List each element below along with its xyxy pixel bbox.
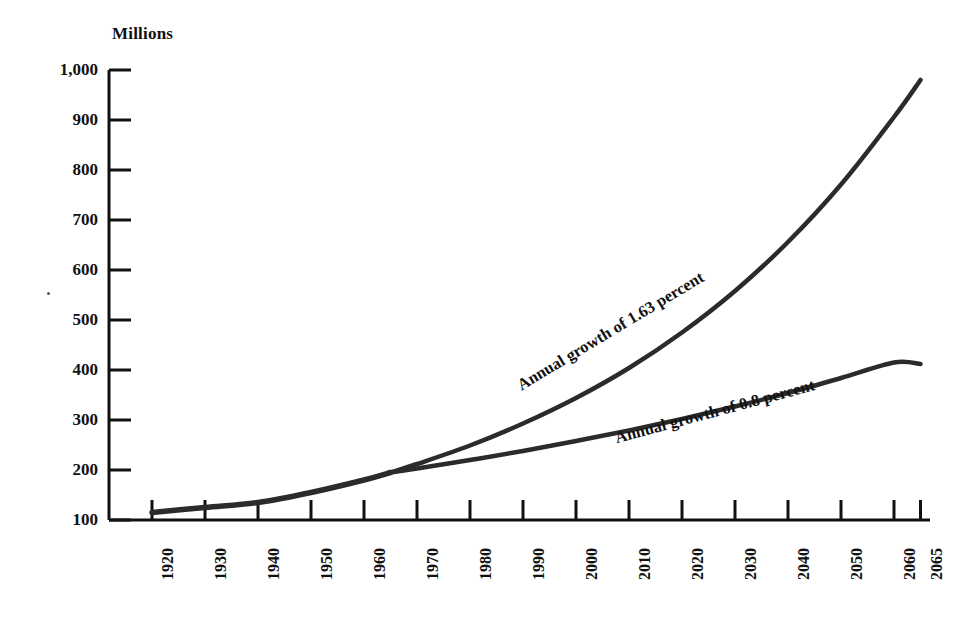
y-axis-tick-label: 400 bbox=[0, 360, 98, 380]
x-axis-tick-label: 1970 bbox=[424, 548, 442, 580]
y-axis-tick-label: 300 bbox=[0, 410, 98, 430]
x-axis-tick-label: 2065 bbox=[928, 548, 946, 580]
y-axis-unit-title: Millions bbox=[112, 24, 173, 44]
x-axis-tick-label: 1990 bbox=[530, 548, 548, 580]
x-axis-tick-label: 1940 bbox=[265, 548, 283, 580]
curve-historical bbox=[152, 473, 391, 513]
x-axis-tick-label: 2000 bbox=[583, 548, 601, 580]
y-axis-tick-label: 900 bbox=[0, 110, 98, 130]
y-axis-tick-label: 100 bbox=[0, 510, 98, 530]
x-axis-tick-label: 1950 bbox=[318, 548, 336, 580]
x-axis-tick-label: 1930 bbox=[212, 548, 230, 580]
y-axis-tick-label: 800 bbox=[0, 160, 98, 180]
y-axis-tick-label: 700 bbox=[0, 210, 98, 230]
data-curves bbox=[152, 80, 921, 513]
x-axis-tick-label: 1920 bbox=[159, 548, 177, 580]
y-axis-ticks bbox=[109, 70, 131, 520]
image-speck bbox=[47, 292, 50, 295]
x-axis-tick-label: 2040 bbox=[795, 548, 813, 580]
x-axis-tick-label: 2010 bbox=[636, 548, 654, 580]
y-axis-tick-label: 600 bbox=[0, 260, 98, 280]
x-axis-tick-label: 1960 bbox=[371, 548, 389, 580]
y-axis-tick-label: 1,000 bbox=[0, 60, 98, 80]
x-axis-tick-label: 2030 bbox=[742, 548, 760, 580]
x-axis-tick-label: 2050 bbox=[848, 548, 866, 580]
x-axis-tick-label: 2020 bbox=[689, 548, 707, 580]
y-axis-tick-label: 200 bbox=[0, 460, 98, 480]
x-axis-tick-label: 1980 bbox=[477, 548, 495, 580]
chart-page: Millions 1002003004005006007008009001,00… bbox=[0, 0, 954, 628]
y-axis-tick-label: 500 bbox=[0, 310, 98, 330]
population-projection-chart bbox=[0, 0, 954, 628]
x-axis-tick-label: 2060 bbox=[901, 548, 919, 580]
curve-high-growth bbox=[391, 80, 921, 473]
